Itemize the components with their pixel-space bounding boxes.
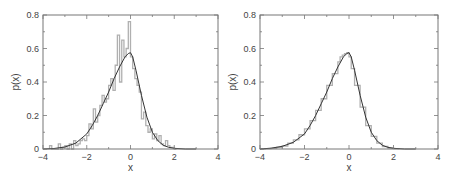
fit-curve-series: [43, 53, 196, 149]
y-tick-label: 0.6: [243, 44, 256, 54]
plot-frame: [260, 15, 438, 149]
y-tick-label: 0: [34, 144, 39, 154]
x-tick-label: 4: [215, 152, 220, 162]
y-tick-label: 0.6: [26, 44, 39, 54]
x-tick-label: −2: [82, 152, 92, 162]
x-tick-label: −4: [38, 152, 48, 162]
y-tick-label: 0.4: [26, 77, 39, 87]
figure: −4−202400.20.40.60.8xp(x) −4−202400.20.4…: [0, 0, 454, 174]
y-tick-label: 0.2: [26, 111, 39, 121]
x-axis-label: x: [347, 162, 352, 173]
x-tick-label: 0: [346, 152, 351, 162]
x-tick-label: 0: [128, 152, 133, 162]
histogram-series: [260, 53, 399, 149]
y-tick-label: 0.2: [243, 111, 256, 121]
x-tick-label: −2: [299, 152, 309, 162]
right-panel: −4−202400.20.40.60.8xp(x): [227, 10, 441, 173]
x-tick-label: 2: [172, 152, 177, 162]
x-tick-label: 4: [435, 152, 440, 162]
y-tick-label: 0: [251, 144, 256, 154]
histogram-series: [50, 22, 177, 149]
y-axis-label: p(x): [10, 73, 21, 90]
y-tick-label: 0.4: [243, 77, 256, 87]
x-tick-label: 2: [391, 152, 396, 162]
x-tick-label: −4: [255, 152, 265, 162]
y-axis-label: p(x): [227, 73, 238, 90]
y-tick-label: 0.8: [26, 10, 39, 20]
y-tick-label: 0.8: [243, 10, 256, 20]
fit-curve-series: [260, 53, 416, 149]
left-panel: −4−202400.20.40.60.8xp(x): [10, 10, 221, 173]
x-axis-label: x: [128, 162, 133, 173]
